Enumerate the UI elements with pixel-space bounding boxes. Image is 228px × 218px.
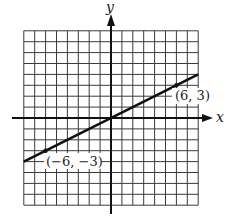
coordinate-plane: x y (6, 3) (−6, −3) <box>0 0 228 218</box>
point-a-label: (−6, −3) <box>46 154 103 169</box>
point-b-label: (6, 3) <box>175 88 210 103</box>
x-axis-arrow-icon <box>202 114 213 122</box>
data-point <box>174 83 178 87</box>
axes <box>12 14 213 214</box>
x-axis-label: x <box>216 109 224 125</box>
y-axis-label: y <box>105 0 115 15</box>
y-axis-arrow-icon <box>107 14 115 26</box>
data-point <box>43 149 47 153</box>
